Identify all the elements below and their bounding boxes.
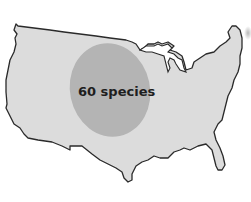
species-range-map: 60 species: [0, 0, 251, 202]
us-map-graphic: [0, 0, 251, 202]
range-label: 60 species: [78, 84, 155, 99]
edge-shadow: [244, 26, 251, 40]
